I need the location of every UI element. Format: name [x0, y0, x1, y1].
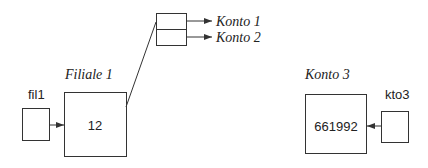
- array-cell-1: [157, 14, 187, 30]
- kto3-reference-box: [382, 112, 409, 143]
- fil1-label: fil1: [28, 87, 45, 102]
- object-reference-diagram: Filiale 1 12 fil1 Konto 1 Konto 2 Konto …: [0, 0, 428, 168]
- kto3-label: kto3: [385, 87, 410, 102]
- konto-1-label: Konto 1: [215, 14, 261, 29]
- fil1-reference-box: [23, 109, 50, 141]
- filiale-value: 12: [88, 118, 102, 133]
- konto3-title: Konto 3: [304, 67, 350, 82]
- konto-2-label: Konto 2: [215, 30, 261, 45]
- filiale-to-array-line: [126, 22, 156, 107]
- filiale-title: Filiale 1: [64, 67, 113, 82]
- array-cell-2: [157, 30, 187, 46]
- konto3-value: 661992: [314, 119, 357, 134]
